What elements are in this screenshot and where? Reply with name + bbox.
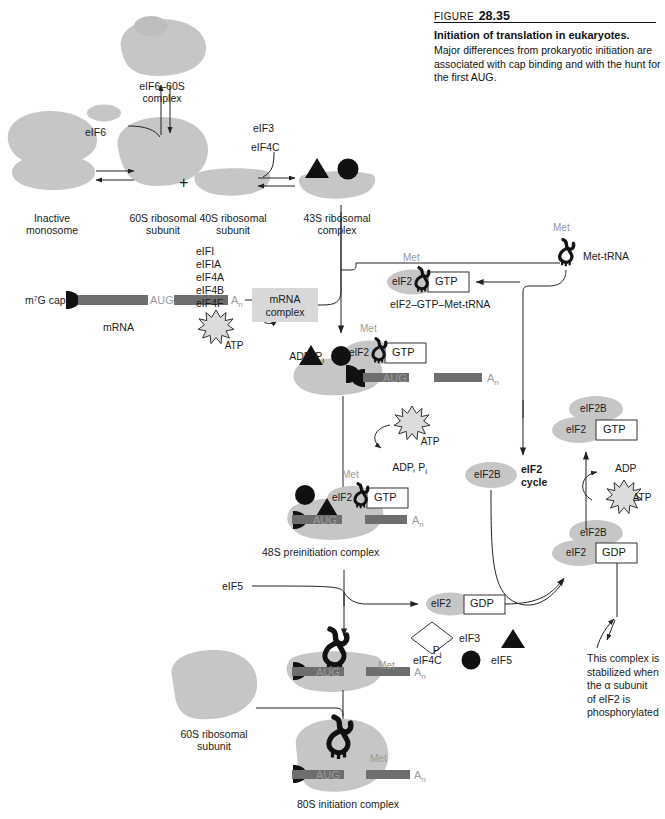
- label-met-3: Met: [342, 469, 359, 481]
- 60s-subunit-shape: [117, 117, 208, 186]
- label-40s-subunit: 40S ribosomal subunit: [199, 212, 266, 236]
- label-polya-3: An: [412, 514, 424, 531]
- 60s-subunit-bottom-shape: [171, 650, 257, 719]
- label-inactive-monosome: Inactive monosome: [26, 212, 78, 236]
- label-gdp-cycle: GDP: [602, 546, 626, 558]
- path-note-arrow: [597, 619, 614, 648]
- label-initiation-factors: eIFI eIFIA eIF4A eIF4B eIF4F: [196, 245, 224, 310]
- figure-title: Initiation of translation in eukaryotes.: [434, 28, 662, 42]
- figure-label: FIGURE: [434, 11, 474, 22]
- label-eif6-60s-complex: eIF6–60S complex: [139, 80, 185, 104]
- label-met-1: Met: [403, 252, 420, 264]
- label-polya-5: An: [414, 769, 426, 786]
- label-polya-2: An: [487, 372, 499, 389]
- eif6-60s-complex-shape: [121, 16, 206, 76]
- figure-number: 28.35: [479, 9, 510, 23]
- label-gtp-3: GTP: [374, 491, 397, 503]
- label-atp-3: ATP: [633, 492, 652, 504]
- label-eif2-gtp-met-trna: eIF2–GTP–Met-tRNA: [390, 298, 490, 310]
- label-mrna-complex: mRNA complex: [265, 293, 304, 319]
- label-met-4: Met: [378, 660, 395, 672]
- label-eif2-gdp: eIF2: [431, 598, 451, 610]
- label-aug-3: AUG: [313, 514, 337, 526]
- label-eif2b-free: eIF2B: [474, 469, 501, 481]
- label-80s-complex: 80S initiation complex: [297, 798, 399, 810]
- label-eif2-top: eIF2: [566, 424, 586, 436]
- complex-80s: [292, 717, 410, 792]
- label-mrna: mRNA: [103, 321, 134, 333]
- label-met-2: Met: [360, 323, 377, 335]
- path-eif2b-down-loop: [491, 490, 564, 605]
- label-adp-pi-2: ADP, Pi: [387, 449, 427, 478]
- label-plus: +: [179, 177, 188, 189]
- label-atp-2: ATP: [421, 436, 440, 448]
- atp-star-icon: [198, 310, 234, 344]
- figure-rule: [434, 22, 656, 23]
- label-aug-4: AUG: [316, 666, 340, 678]
- label-met-trna: Met-tRNA: [583, 250, 629, 262]
- label-eif2-bottom: eIF2: [566, 547, 586, 559]
- label-eif5-2: eIF5: [491, 654, 512, 666]
- label-eif2-cycle: eIF2 cycle: [521, 463, 547, 489]
- label-adp: ADP: [615, 462, 637, 474]
- inactive-monosome-shape: [8, 111, 97, 190]
- eif4c-circle-icon: [338, 159, 359, 180]
- path-mettrna-join: [523, 270, 566, 418]
- label-eif6: eIF6: [85, 126, 106, 138]
- 40s-subunit-shape: [194, 168, 270, 196]
- label-eif5-in: eIF5: [222, 580, 243, 592]
- arrow-adp-release: [583, 472, 597, 500]
- eif3-triangle-icon: [305, 158, 329, 178]
- label-met-5: Met: [370, 753, 387, 765]
- figure-diagram: [0, 0, 665, 819]
- path-eif5-in: [252, 570, 418, 606]
- label-adp-pi-1: ADP, Pi: [284, 338, 324, 367]
- met-trna-free: [560, 240, 574, 267]
- label-eif2b-bottom: eIF2B: [580, 527, 607, 539]
- label-eif2-2: eIF2: [349, 347, 369, 359]
- arrow-atp-hydrolysis-2: [375, 425, 390, 448]
- label-60s-subunit-bottom: 60S ribosomal subunit: [180, 728, 247, 752]
- label-eif4c-2: eIF4C: [413, 654, 442, 666]
- label-43s-complex: 43S ribosomal complex: [303, 212, 370, 236]
- path-stabilize-pointer: [607, 620, 615, 640]
- label-stabilized-note: This complex is stabilized when the α su…: [587, 652, 659, 720]
- label-aug-2: AUG: [383, 372, 407, 384]
- eif4c-circle-icon-3: [462, 651, 481, 670]
- label-met-free: Met: [553, 222, 570, 234]
- label-gtp-1: GTP: [435, 275, 458, 287]
- label-eif3-2: eIF3: [459, 632, 480, 644]
- path-43s-to-eif2: [341, 263, 560, 270]
- label-gtp-2: GTP: [392, 346, 415, 358]
- label-60s-subunit: 60S ribosomal subunit: [129, 212, 196, 236]
- label-polya-4: An: [414, 666, 426, 683]
- label-eif2-3: eIF2: [332, 492, 352, 504]
- label-eif3: eIF3: [253, 122, 274, 134]
- label-eif2-1: eIF2: [392, 276, 412, 288]
- label-eif2b-top: eIF2B: [580, 403, 607, 415]
- label-eif4c: eIF4C: [251, 141, 280, 153]
- label-aug-5: AUG: [316, 769, 340, 781]
- eif3-triangle-icon-3: [501, 629, 525, 648]
- label-atp-1: ATP: [225, 340, 244, 352]
- label-gtp-cycle: GTP: [603, 423, 626, 435]
- label-gdp-1: GDP: [470, 597, 494, 609]
- label-polya-mrna: An: [231, 294, 243, 311]
- figure-caption: Major differences from prokaryotic initi…: [434, 44, 662, 85]
- label-m7g-cap: m⁷G cap: [25, 294, 66, 306]
- atp-star-icon-2: [394, 406, 430, 440]
- eif6-shape: [87, 105, 121, 122]
- label-48s-complex: 48S preinitiation complex: [262, 546, 379, 558]
- label-aug-mrna: AUG: [150, 294, 174, 306]
